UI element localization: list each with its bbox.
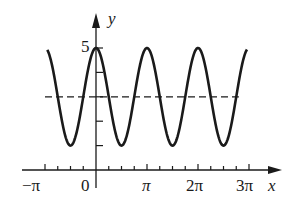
- x-tick-label-3pi: 3π: [236, 176, 254, 195]
- x-axis-label: x: [267, 176, 276, 195]
- y-axis-label: y: [106, 9, 116, 28]
- x-ticks: [45, 164, 249, 170]
- x-tick-label-pi: π: [142, 176, 151, 195]
- y-axis-arrow-icon: [92, 13, 100, 28]
- x-tick-label-zero: 0: [81, 176, 90, 195]
- x-tick-label-2pi: 2π: [186, 176, 204, 195]
- x-tick-label-neg-pi: −π: [22, 176, 41, 195]
- function-graph: y 5 −π 0 π 2π 3π x: [0, 0, 294, 204]
- axes: [22, 13, 282, 188]
- x-axis-arrow-icon: [268, 166, 282, 174]
- y-tick-label-5: 5: [81, 37, 90, 56]
